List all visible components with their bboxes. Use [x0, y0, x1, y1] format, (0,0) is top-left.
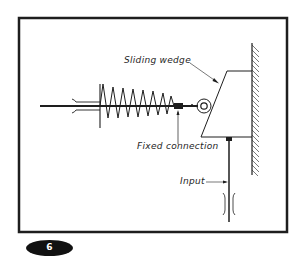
pin-dot: [191, 104, 193, 106]
figure-number-badge: 6: [26, 240, 73, 256]
label-input: Input: [180, 176, 205, 186]
fixed-connection-arrow: [177, 110, 180, 144]
wall: [252, 43, 259, 176]
compression-spring: [100, 84, 174, 118]
fixed-connection: [174, 103, 183, 109]
label-sliding-wedge: Sliding wedge: [124, 55, 191, 65]
frame: [19, 18, 287, 232]
sliding-wedge-leader: [190, 63, 219, 84]
label-fixed-connection: Fixed connection: [137, 141, 219, 151]
input-leader: [206, 181, 228, 184]
roller: [197, 99, 211, 113]
sliding-wedge: [201, 71, 252, 137]
